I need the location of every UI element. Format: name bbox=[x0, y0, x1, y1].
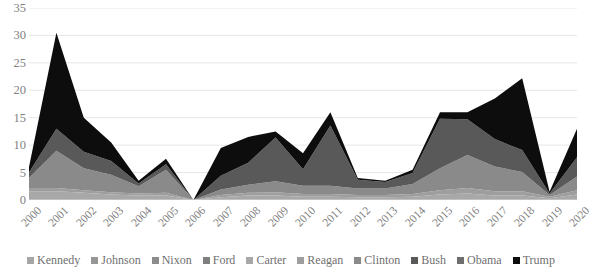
legend-item-label: Bush bbox=[421, 254, 446, 266]
legend-item-label: Ford bbox=[213, 254, 236, 266]
legend-item-label: Reagan bbox=[307, 254, 343, 266]
y-axis-tick-label: 5 bbox=[2, 167, 26, 179]
legend-item-label: Nixon bbox=[162, 254, 192, 266]
y-axis-tick-label: 20 bbox=[2, 84, 26, 96]
legend-item-label: Johnson bbox=[101, 254, 140, 266]
y-axis-tick-label: 10 bbox=[2, 139, 26, 151]
legend-swatch-icon bbox=[91, 257, 98, 264]
x-axis-tick-label: 2017 bbox=[477, 204, 510, 237]
legend-item-ford[interactable]: Ford bbox=[203, 254, 236, 266]
legend-item-carter[interactable]: Carter bbox=[246, 254, 286, 266]
legend-item-label: Obama bbox=[467, 254, 502, 266]
x-axis-tick-label: 2019 bbox=[532, 204, 565, 237]
x-axis-tick-label: 2001 bbox=[38, 204, 71, 237]
x-axis-tick-label: 2008 bbox=[230, 204, 263, 237]
legend-swatch-icon bbox=[27, 257, 34, 264]
y-axis-tick-label: 0 bbox=[2, 194, 26, 206]
chart-canvas bbox=[29, 8, 577, 200]
legend-item-kennedy[interactable]: Kennedy bbox=[27, 254, 80, 266]
legend-item-johnson[interactable]: Johnson bbox=[91, 254, 140, 266]
x-axis-tick-label: 2007 bbox=[203, 204, 236, 237]
x-axis-tick-label: 2005 bbox=[148, 204, 181, 237]
x-axis-tick-label: 2004 bbox=[121, 204, 154, 237]
x-axis-tick-label: 2018 bbox=[504, 204, 537, 237]
x-axis-tick-label: 2003 bbox=[93, 204, 126, 237]
x-axis-tick-label: 2020 bbox=[559, 204, 592, 237]
y-axis-tick-label: 15 bbox=[2, 112, 26, 124]
legend-swatch-icon bbox=[203, 257, 210, 264]
legend-swatch-icon bbox=[297, 257, 304, 264]
legend-swatch-icon bbox=[513, 257, 520, 264]
legend-item-bush[interactable]: Bush bbox=[411, 254, 446, 266]
y-axis-tick-label: 30 bbox=[2, 29, 26, 41]
y-axis-tick-label: 25 bbox=[2, 57, 26, 69]
y-axis-tick-label: 35 bbox=[2, 2, 26, 14]
x-axis-tick-label: 2009 bbox=[258, 204, 291, 237]
chart-legend: KennedyJohnsonNixonFordCarterReaganClint… bbox=[0, 251, 582, 269]
x-axis: 2000200120022003200420052006200720082009… bbox=[29, 200, 577, 246]
x-axis-tick-label: 2013 bbox=[367, 204, 400, 237]
legend-swatch-icon bbox=[354, 257, 361, 264]
plot-area bbox=[29, 8, 577, 200]
legend-item-label: Carter bbox=[256, 254, 286, 266]
legend-item-reagan[interactable]: Reagan bbox=[297, 254, 343, 266]
legend-swatch-icon bbox=[152, 257, 159, 264]
x-axis-tick-label: 2010 bbox=[285, 204, 318, 237]
x-axis-tick-label: 2015 bbox=[422, 204, 455, 237]
legend-swatch-icon bbox=[411, 257, 418, 264]
legend-swatch-icon bbox=[246, 257, 253, 264]
x-axis-tick-label: 2006 bbox=[175, 204, 208, 237]
x-axis-tick-label: 2011 bbox=[312, 204, 345, 237]
legend-item-trump[interactable]: Trump bbox=[513, 254, 555, 266]
legend-item-nixon[interactable]: Nixon bbox=[152, 254, 192, 266]
legend-item-clinton[interactable]: Clinton bbox=[354, 254, 400, 266]
legend-swatch-icon bbox=[457, 257, 464, 264]
y-axis: 35302520151050 bbox=[0, 0, 26, 210]
legend-item-obama[interactable]: Obama bbox=[457, 254, 502, 266]
legend-item-label: Trump bbox=[523, 254, 555, 266]
x-axis-tick-label: 2016 bbox=[449, 204, 482, 237]
legend-item-label: Clinton bbox=[364, 254, 400, 266]
x-axis-tick-label: 2002 bbox=[66, 204, 99, 237]
x-axis-tick-label: 2014 bbox=[395, 204, 428, 237]
x-axis-tick-label: 2012 bbox=[340, 204, 373, 237]
legend-item-label: Kennedy bbox=[37, 254, 80, 266]
